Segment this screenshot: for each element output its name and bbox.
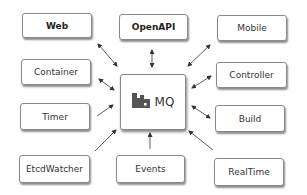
node-build-label: Build: [239, 114, 262, 124]
node-build: Build: [215, 105, 285, 132]
arrow-container-mq: [99, 79, 114, 90]
node-events: Events: [116, 155, 185, 183]
arrow-etcdwatcher-mq: [95, 130, 116, 151]
node-web: Web: [22, 13, 92, 38]
arrow-controller-mq: [192, 76, 211, 88]
node-container-label: Container: [34, 67, 78, 77]
node-mobile-label: Mobile: [237, 23, 267, 33]
node-container: Container: [21, 59, 91, 85]
node-etcdwatcher: EtcdWatcher: [19, 155, 90, 183]
node-events-label: Events: [135, 164, 165, 174]
node-mobile: Mobile: [217, 15, 287, 41]
node-realtime: RealTime: [214, 158, 284, 186]
node-openapi: OpenAPI: [119, 14, 188, 40]
node-web-label: Web: [46, 21, 68, 31]
arrow-build-mq: [192, 106, 210, 118]
arrow-mobile-mq: [188, 45, 210, 66]
hub-label: MQ: [155, 95, 175, 109]
node-controller-label: Controller: [229, 70, 273, 80]
node-openapi-label: OpenAPI: [132, 22, 176, 32]
node-etcdwatcher-label: EtcdWatcher: [26, 164, 83, 174]
factory-icon: [132, 93, 150, 112]
arrow-realtime-mq: [189, 131, 213, 150]
node-mq-hub: MQ: [120, 74, 186, 130]
arrow-timer-mq: [97, 105, 113, 116]
node-timer: Timer: [20, 103, 90, 130]
node-timer-label: Timer: [42, 112, 68, 122]
arrow-web-mq: [98, 44, 117, 66]
node-realtime-label: RealTime: [228, 167, 269, 177]
node-controller: Controller: [216, 62, 287, 88]
